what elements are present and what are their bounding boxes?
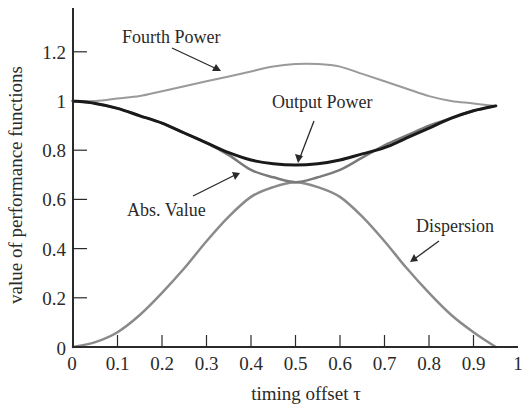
axes: 00.10.20.30.40.50.60.70.80.91 00.20.40.6… bbox=[42, 8, 523, 374]
x-axis-ticks: 00.10.20.30.40.50.60.70.80.91 bbox=[67, 335, 523, 374]
x-axis-title: timing offset τ bbox=[251, 383, 361, 404]
x-tick-label: 1 bbox=[513, 353, 523, 374]
annotation-abs-value: Abs. Value bbox=[127, 200, 206, 220]
arrow-dispersion bbox=[413, 241, 439, 260]
y-tick-label: 0.8 bbox=[42, 140, 66, 161]
x-tick-label: 0.2 bbox=[150, 353, 174, 374]
x-tick-label: 0.4 bbox=[239, 353, 263, 374]
arrow-abs-value bbox=[193, 174, 237, 196]
x-tick-label: 0.9 bbox=[462, 353, 486, 374]
arrowhead-icon bbox=[295, 154, 303, 163]
annotations: Fourth Power Output Power Abs. Value Dis… bbox=[122, 27, 494, 262]
annotation-fourth-power: Fourth Power bbox=[122, 27, 221, 47]
y-axis-title: value of performance functions bbox=[5, 66, 26, 304]
arrow-output-power bbox=[299, 121, 314, 160]
x-tick-label: 0.1 bbox=[106, 353, 130, 374]
x-tick-label: 0.6 bbox=[328, 353, 352, 374]
performance-functions-chart: 00.10.20.30.40.50.60.70.80.91 00.20.40.6… bbox=[0, 0, 526, 405]
y-tick-label: 1.2 bbox=[42, 42, 66, 63]
annotation-output-power: Output Power bbox=[272, 92, 373, 112]
x-tick-label: 0.3 bbox=[195, 353, 219, 374]
y-tick-label: 0.4 bbox=[42, 239, 66, 260]
y-axis-ticks: 00.20.40.60.811.2 bbox=[42, 42, 87, 359]
y-tick-label: 0.2 bbox=[42, 288, 66, 309]
x-tick-label: 0.7 bbox=[373, 353, 397, 374]
x-tick-label: 0.5 bbox=[284, 353, 308, 374]
arrow-fourth-power bbox=[172, 48, 219, 70]
y-tick-label: 1 bbox=[57, 91, 67, 112]
y-tick-label: 0.6 bbox=[42, 189, 66, 210]
x-tick-label: 0 bbox=[67, 353, 77, 374]
y-tick-label: 0 bbox=[57, 338, 67, 359]
annotation-dispersion: Dispersion bbox=[416, 216, 494, 236]
x-tick-label: 0.8 bbox=[417, 353, 441, 374]
